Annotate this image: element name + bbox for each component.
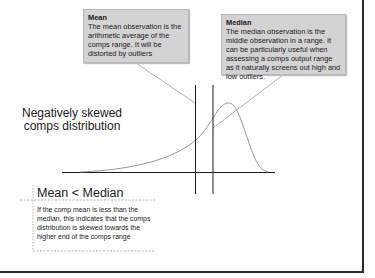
median-callout-title: Median (226, 18, 341, 27)
mean-connector (136, 63, 195, 103)
median-connector (213, 75, 283, 128)
note-body: If the comp mean is less than the median… (37, 205, 157, 241)
median-callout: Median The median observation is the mid… (221, 14, 346, 75)
mean-callout: Mean The mean observation is the arithme… (83, 9, 189, 63)
chart-label: Negatively skewed comps distribution (18, 107, 126, 133)
note-title: Mean < Median (37, 186, 124, 200)
median-callout-body: The median observation is the middle obs… (226, 27, 341, 81)
mean-callout-title: Mean (88, 13, 184, 22)
mean-callout-body: The mean observation is the arithmetic a… (88, 22, 184, 58)
